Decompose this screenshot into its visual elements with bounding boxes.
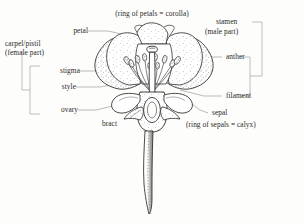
peduncle bbox=[144, 131, 153, 214]
carpel-bracket bbox=[22, 51, 40, 114]
petal-label: petal bbox=[58, 26, 88, 35]
ovary-label: ovary bbox=[42, 105, 78, 114]
stamen-label-line2: (male part) bbox=[205, 27, 238, 36]
calyx-note-label: (ring of sepals = calyx) bbox=[186, 120, 256, 129]
stamen-label-line1: stamen bbox=[216, 17, 237, 26]
ovule bbox=[147, 102, 156, 118]
style bbox=[149, 52, 155, 93]
corolla-note-label: (ring of petals = corolla) bbox=[96, 9, 208, 18]
stigma-label: stigma bbox=[42, 66, 80, 75]
sepal-label: sepal bbox=[212, 108, 227, 117]
style-label: style bbox=[42, 82, 76, 91]
carpel-pistil-label-line1: carpel/pistil bbox=[5, 39, 41, 48]
bract-label: bract bbox=[102, 119, 117, 128]
filament-label: filament bbox=[226, 91, 251, 100]
carpel-pistil-label-line2: (female part) bbox=[5, 48, 44, 57]
stigma bbox=[147, 46, 158, 52]
flower-diagram-figure: (ring of petals = corolla) petal carpel/… bbox=[0, 0, 304, 224]
anther-label: anther bbox=[226, 52, 245, 61]
